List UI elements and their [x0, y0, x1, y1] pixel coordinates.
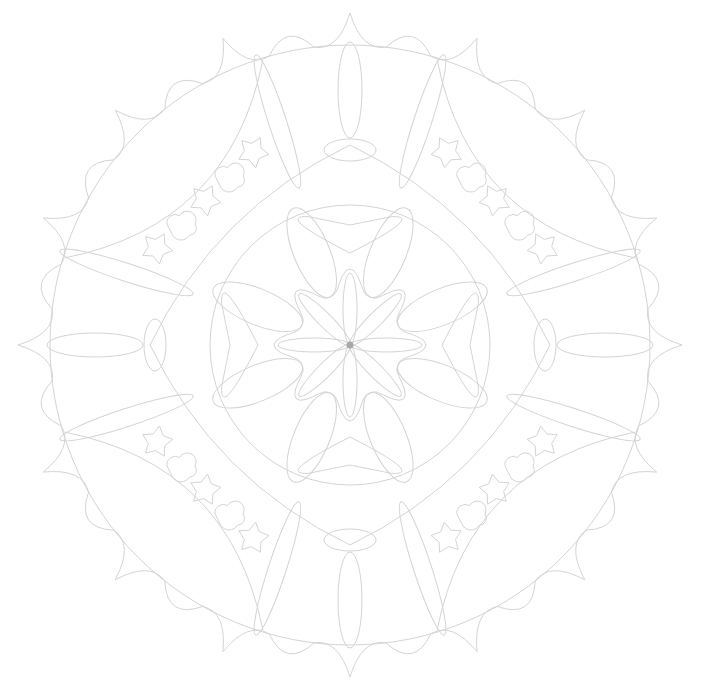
center-dot: [347, 342, 354, 349]
mandala-drawing: [0, 0, 705, 681]
